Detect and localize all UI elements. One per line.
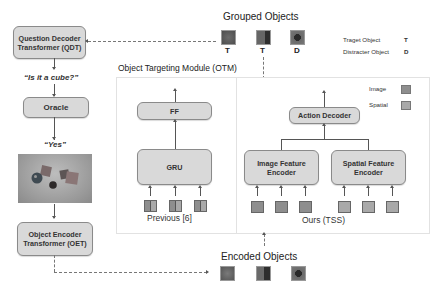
grouped-object-tag-1: T (225, 46, 230, 55)
action-decoder-label: Action Decoder (298, 111, 351, 120)
spatial-encoder-line2: Encoder (343, 168, 395, 177)
dashed-connector (88, 41, 216, 42)
distracter-object-label: Distracter Object (343, 48, 389, 55)
arrow-up-icon (342, 185, 346, 188)
arrow-down-icon (52, 67, 56, 70)
arrow-down-icon (52, 216, 56, 219)
encoded-object-1 (220, 266, 235, 281)
oracle-box: Oracle (23, 97, 89, 118)
encoded-object-3 (291, 266, 306, 281)
arrow-right-icon (206, 270, 209, 274)
legend-spatial-swatch (401, 101, 411, 110)
arrow-up-icon (262, 232, 266, 235)
qdt-box: Question Decoder Transformer (QDT) (13, 26, 86, 59)
target-object-label: Traget Object (343, 36, 380, 43)
scene-objects-icon (18, 154, 92, 203)
connector (368, 187, 369, 196)
action-decoder-box: Action Decoder (289, 107, 360, 124)
arrow-up-icon (173, 185, 177, 188)
grouped-object-tag-2: T (260, 46, 265, 55)
dashed-connector (54, 272, 207, 273)
image-feature-encoder-box: Image Feature Encoder (244, 150, 319, 185)
encoded-objects-title: Encoded Objects (221, 251, 297, 262)
dashed-connector (264, 234, 265, 246)
arrow-up-icon (279, 185, 283, 188)
arrow-left-icon (85, 39, 88, 43)
image-token-2 (275, 201, 288, 213)
connector (175, 90, 176, 102)
grouped-object-2 (256, 30, 271, 45)
qdt-line2: Transformer (QDT) (18, 43, 82, 52)
grouped-object-tag-3: D (294, 46, 300, 55)
gru-box: GRU (137, 149, 212, 185)
grouped-objects-title: Grouped Objects (223, 11, 299, 22)
question-text: “Is it a cube?” (24, 73, 78, 82)
oet-line2: Transformer (OET) (23, 239, 87, 248)
connector (281, 139, 282, 150)
qdt-line1: Question Decoder (18, 34, 82, 43)
oracle-label: Oracle (44, 103, 69, 113)
previous-caption: Previous [6] (147, 213, 192, 223)
ff-box: FF (137, 102, 212, 120)
arrow-up-icon (303, 185, 307, 188)
distracter-object-tag: D (404, 48, 408, 55)
grouped-object-1 (221, 30, 236, 45)
gru-label: GRU (167, 163, 183, 172)
connector (305, 187, 306, 196)
scene-image (18, 154, 92, 203)
connector (344, 187, 345, 196)
image-token-3 (299, 201, 312, 213)
connector (392, 187, 393, 196)
encoded-object-2 (256, 266, 271, 281)
spatial-encoder-line1: Spatial Feature (343, 159, 395, 168)
spatial-token-1 (338, 201, 351, 213)
dashed-connector (54, 255, 55, 272)
connector (281, 139, 369, 140)
connector (368, 139, 369, 150)
image-token-1 (251, 201, 264, 213)
previous-token-3 (194, 200, 207, 212)
oet-line1: Object Encoder (23, 230, 87, 239)
legend-spatial-label: Spatial (369, 101, 388, 108)
target-object-tag: T (404, 36, 408, 43)
legend-image-label: Image (369, 85, 386, 92)
connector (281, 187, 282, 196)
connector (200, 187, 201, 196)
connector (175, 187, 176, 196)
arrow-up-icon (255, 185, 259, 188)
connector (175, 121, 176, 149)
connector (150, 187, 151, 196)
arrow-up-icon (366, 185, 370, 188)
ff-label: FF (170, 107, 179, 116)
arrow-up-icon (148, 185, 152, 188)
connector (324, 92, 325, 107)
answer-text: “Yes” (44, 140, 66, 149)
connector (324, 125, 325, 139)
previous-token-1 (144, 200, 157, 212)
image-encoder-line1: Image Feature (257, 159, 306, 168)
ours-caption: Ours (TSS) (302, 215, 345, 225)
spatial-token-3 (386, 201, 399, 213)
grouped-object-3 (290, 30, 305, 45)
previous-token-2 (169, 200, 182, 212)
connector (257, 187, 258, 196)
image-encoder-line2: Encoder (257, 168, 306, 177)
oet-box: Object Encoder Transformer (OET) (17, 222, 93, 256)
spatial-feature-encoder-box: Spatial Feature Encoder (331, 150, 406, 185)
otm-title: Object Targeting Module (OTM) (118, 63, 237, 73)
spatial-token-2 (362, 201, 375, 213)
legend-image-swatch (401, 85, 411, 94)
arrow-up-icon (390, 185, 394, 188)
dashed-connector (263, 57, 264, 79)
arrow-up-icon (198, 185, 202, 188)
